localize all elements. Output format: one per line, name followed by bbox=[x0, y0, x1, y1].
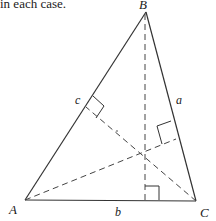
altitude-from-A bbox=[25, 139, 176, 200]
vertex-label-C: C bbox=[200, 205, 209, 220]
vertex-label-A: A bbox=[8, 202, 17, 217]
vertex-label-B: B bbox=[139, 0, 147, 12]
triangle-diagram: B A C a b c bbox=[0, 0, 216, 221]
side-a-BC bbox=[146, 12, 196, 201]
side-c-AB bbox=[25, 12, 146, 200]
side-label-b: b bbox=[115, 205, 121, 219]
altitude-from-C bbox=[86, 107, 196, 201]
right-angle-marker-AC bbox=[145, 186, 159, 200]
side-label-a: a bbox=[176, 93, 182, 107]
right-angle-marker-BC bbox=[157, 121, 171, 144]
side-b-AC bbox=[25, 200, 196, 201]
side-label-c: c bbox=[75, 93, 81, 107]
